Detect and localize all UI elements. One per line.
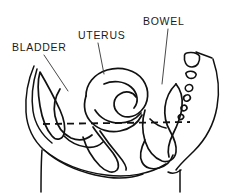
thigh-line-left (41, 150, 42, 192)
pelvic-anatomy-diagram: BLADDER UTERUS BOWEL (0, 0, 237, 194)
coccyx-segment-1 (184, 83, 194, 92)
rectosigmoid-fold (150, 119, 166, 128)
uterine-cavity-line (104, 82, 137, 108)
bladder-label: BLADDER (12, 41, 67, 53)
uterus-label: UTERUS (78, 29, 125, 41)
bowel-label: BOWEL (143, 15, 184, 27)
bowel-leader-line (162, 29, 168, 84)
bladder-group (38, 72, 103, 147)
vaginal-canal-line (100, 131, 126, 170)
organ-labels: BLADDER UTERUS BOWEL (12, 15, 184, 53)
coccyx-segment-4 (177, 114, 184, 121)
anatomy-illustration: BLADDER UTERUS BOWEL (0, 0, 237, 194)
sacrum-segment-2 (186, 71, 196, 78)
vagina-group (83, 127, 126, 172)
uterus-leader-line (98, 43, 104, 74)
sacrum-segment-1 (184, 52, 199, 67)
gluteal-fold-tick (168, 170, 181, 173)
coccyx-segment-2 (183, 94, 192, 102)
